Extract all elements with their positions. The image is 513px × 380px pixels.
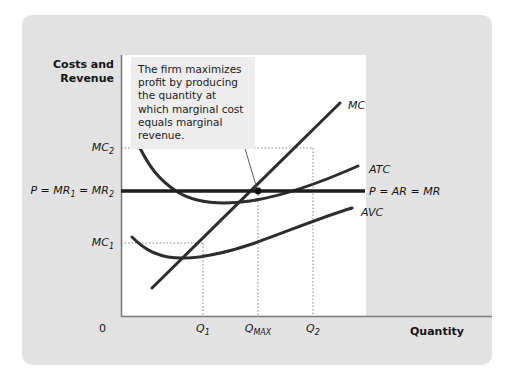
y-tick-price-sub2: 2 [109, 190, 114, 199]
curve-label-mr: P = AR = MR [369, 185, 440, 198]
y-tick-label-price: P = MR1 = MR2 [14, 184, 114, 199]
y-tick-mc1-base: MC [92, 236, 109, 249]
y-tick-label-mc2: MC2 [30, 141, 114, 156]
x-tick-q1-sub: 1 [205, 328, 210, 337]
y-tick-price-base: P = MR [30, 184, 70, 197]
callout-box: The firm maximizes profit by producing t… [131, 57, 255, 149]
x-tick-qmax-sub: MAX [253, 328, 271, 337]
y-axis-title: Costs and Revenue [46, 58, 114, 86]
x-tick-label-q1: Q1 [183, 322, 223, 337]
x-tick-label-qmax: QMAX [234, 322, 282, 337]
curve-avc [132, 208, 352, 258]
y-tick-price-base2: = MR [76, 184, 109, 197]
curve-label-mc: MC [348, 99, 365, 112]
x-tick-q2-base: Q [306, 322, 315, 335]
callout-target-marker [255, 188, 262, 195]
curve-label-atc: ATC [369, 163, 390, 176]
x-tick-q2-sub: 2 [315, 328, 320, 337]
x-tick-q1-base: Q [196, 322, 205, 335]
y-tick-mc2-sub: 2 [109, 147, 114, 156]
curve-atc [140, 148, 358, 203]
y-axis-title-text: Costs and Revenue [53, 58, 114, 85]
curve-label-avc: AVC [361, 206, 383, 219]
y-tick-label-mc1: MC1 [30, 236, 114, 251]
callout-text: The firm maximizes profit by producing t… [138, 63, 243, 141]
y-tick-mc1-sub: 1 [109, 242, 114, 251]
figure-root: The firm maximizes profit by producing t… [0, 0, 513, 380]
x-tick-label-q2: Q2 [293, 322, 333, 337]
x-tick-label-origin: 0 [99, 322, 106, 335]
y-tick-mc2-base: MC [92, 141, 109, 154]
x-axis-title: Quantity [410, 325, 496, 339]
